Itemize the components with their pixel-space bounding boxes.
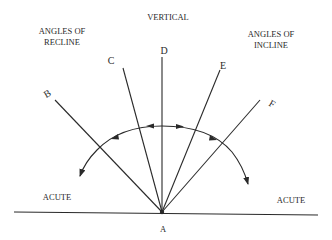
label-acute-left: ACUTE: [43, 192, 71, 202]
heading-recline-line2: RECLINE: [44, 37, 80, 47]
arc-arrowhead-inner-left: [146, 124, 154, 129]
arc-arrowhead-mid-left: [111, 134, 119, 140]
label-b: B: [42, 87, 54, 100]
angle-diagram: VERTICAL ANGLES OF RECLINE ANGLES OF INC…: [0, 0, 332, 240]
origin-point: [160, 210, 164, 214]
ray-c: [123, 68, 162, 212]
label-e: E: [220, 60, 226, 71]
arc-right-arrow: [162, 126, 248, 184]
arc-arrowhead-inner-right: [176, 124, 184, 129]
label-a: A: [160, 224, 167, 234]
heading-vertical: VERTICAL: [147, 12, 189, 22]
heading-incline-line2: INCLINE: [254, 40, 288, 50]
label-d: D: [160, 45, 167, 56]
baseline: [14, 212, 318, 215]
heading-incline-line1: ANGLES OF: [248, 29, 295, 39]
heading-recline-line1: ANGLES OF: [39, 26, 86, 36]
label-acute-right: ACUTE: [277, 195, 305, 205]
label-c: C: [108, 55, 115, 66]
label-f: F: [267, 97, 278, 110]
ray-f: [162, 100, 260, 212]
ray-e: [162, 70, 220, 212]
